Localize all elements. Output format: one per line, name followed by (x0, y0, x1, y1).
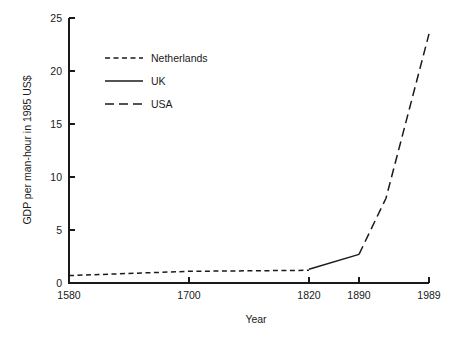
x-tick-label-1820: 1820 (297, 289, 321, 301)
data-series-group (69, 34, 429, 276)
y-tick-label-0: 0 (56, 277, 62, 289)
y-axis-ticks: 0 5 10 15 20 25 (50, 12, 75, 289)
chart-figure: 0 5 10 15 20 25 1580 1700 1820 1890 1989… (0, 0, 456, 338)
legend-label-netherlands: Netherlands (151, 52, 208, 64)
y-tick-label-15: 15 (50, 118, 62, 130)
series-line-uk (309, 254, 359, 269)
x-axis-ticks: 1580 1700 1820 1890 1989 (57, 277, 441, 301)
series-line-netherlands (69, 270, 309, 275)
y-tick-label-20: 20 (50, 65, 62, 77)
y-tick-label-25: 25 (50, 12, 62, 24)
legend-label-uk: UK (151, 75, 166, 87)
y-tick-label-5: 5 (56, 224, 62, 236)
series-line-usa (359, 34, 429, 255)
y-axis-title: GDP per man-hour in 1985 US$ (21, 75, 33, 224)
x-tick-label-1989: 1989 (417, 289, 441, 301)
x-axis-title: Year (245, 313, 267, 325)
x-tick-label-1890: 1890 (347, 289, 371, 301)
x-tick-label-1700: 1700 (177, 289, 201, 301)
chart-legend: Netherlands UK USA (105, 52, 208, 110)
chart-svg: 0 5 10 15 20 25 1580 1700 1820 1890 1989… (0, 0, 456, 338)
x-tick-label-1580: 1580 (57, 289, 81, 301)
legend-label-usa: USA (151, 98, 173, 110)
y-tick-label-10: 10 (50, 171, 62, 183)
